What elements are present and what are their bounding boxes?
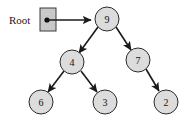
tree-node-9: 9	[95, 7, 119, 31]
edge-9-to-4	[79, 27, 98, 53]
node-label-4: 4	[70, 57, 75, 68]
tree-diagram-canvas: Root 9 4 7 6 3	[0, 0, 188, 120]
node-label-9: 9	[105, 14, 110, 25]
tree-node-2: 2	[154, 90, 178, 114]
tree-node-4: 4	[60, 50, 84, 74]
tree-node-6: 6	[29, 90, 53, 114]
tree-node-3: 3	[93, 90, 117, 114]
edge-4-to-6	[48, 71, 64, 92]
tree-node-7: 7	[126, 48, 150, 72]
node-label-3: 3	[103, 97, 108, 108]
node-label-2: 2	[164, 97, 169, 108]
edge-4-to-3	[81, 71, 97, 92]
edge-9-to-7	[116, 27, 131, 50]
node-label-7: 7	[136, 55, 141, 66]
tree-diagram-svg: Root 9 4 7 6 3	[0, 0, 188, 120]
edge-7-to-2	[146, 69, 159, 91]
root-label: Root	[9, 14, 30, 26]
node-label-6: 6	[39, 97, 44, 108]
